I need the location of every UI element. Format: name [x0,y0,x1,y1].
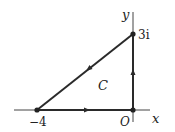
x-axis-label: x [152,111,160,126]
point-3i [130,31,135,36]
label-origin: O [120,115,130,129]
y-axis-label: y [121,7,130,22]
label-3i: 3i [138,28,150,42]
arrow-up-icon [131,69,136,75]
point-minus-4 [34,107,39,112]
label-contour-c: C [98,78,108,93]
arrow-right-icon [84,108,90,113]
label-minus-4: −4 [29,115,47,129]
edge-hypotenuse [37,34,133,110]
contour-c [37,34,133,110]
contour-diagram: y x 3i −4 O C [0,0,175,132]
point-origin [130,107,135,112]
